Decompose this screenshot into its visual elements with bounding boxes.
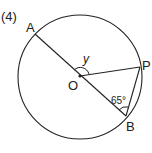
circle-diagram: (4) A O P B y 65° <box>0 0 152 153</box>
segment-OP <box>80 67 140 76</box>
center-dot <box>78 74 81 77</box>
label-B: B <box>126 119 135 134</box>
problem-number: (4) <box>1 9 17 24</box>
label-O: O <box>68 78 78 93</box>
label-y: y <box>82 52 90 66</box>
angle-65-arc <box>119 107 128 110</box>
label-A: A <box>26 20 35 35</box>
label-65: 65° <box>111 95 126 106</box>
label-P: P <box>142 58 151 73</box>
